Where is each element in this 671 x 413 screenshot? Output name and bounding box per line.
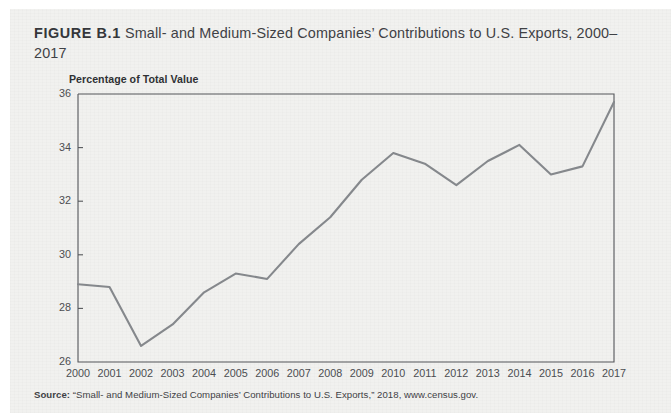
source-text: “Small- and Medium-Sized Companies’ Cont…: [73, 389, 478, 400]
x-tick-label: 2000: [61, 367, 95, 379]
y-tick-label: 34: [47, 141, 71, 153]
plot-frame: [78, 94, 614, 362]
x-tick-label: 2009: [345, 367, 379, 379]
x-tick-label: 2016: [565, 367, 599, 379]
x-tick-label: 2002: [124, 367, 158, 379]
y-tick-label: 36: [47, 87, 71, 99]
figure-panel: FIGURE B.1 Small- and Medium-Sized Compa…: [10, 9, 671, 413]
y-tick-label: 28: [47, 301, 71, 313]
x-tick-label: 2003: [156, 367, 190, 379]
x-tick-label: 2011: [408, 367, 442, 379]
x-tick-label: 2007: [282, 367, 316, 379]
x-tick-label: 2001: [93, 367, 127, 379]
x-tick-label: 2008: [313, 367, 347, 379]
x-tick-label: 2004: [187, 367, 221, 379]
x-tick-label: 2017: [597, 367, 631, 379]
x-tick-label: 2015: [534, 367, 568, 379]
y-tick-label: 30: [47, 248, 71, 260]
x-tick-label: 2014: [502, 367, 536, 379]
x-tick-label: 2010: [376, 367, 410, 379]
x-tick-label: 2005: [219, 367, 253, 379]
x-tick-label: 2012: [439, 367, 473, 379]
x-tick-label: 2006: [250, 367, 284, 379]
chart-plot-area: 262830323436 200020012002200320042005200…: [10, 9, 671, 413]
y-tick-label: 32: [47, 194, 71, 206]
source-label: Source:: [34, 389, 70, 400]
x-tick-label: 2013: [471, 367, 505, 379]
data-series-line: [78, 102, 614, 346]
line-chart-svg: [10, 9, 671, 413]
y-tick-label: 26: [47, 355, 71, 367]
axis-frame-lines: [78, 94, 614, 362]
source-note: Source: “Small- and Medium-Sized Compani…: [34, 389, 478, 400]
